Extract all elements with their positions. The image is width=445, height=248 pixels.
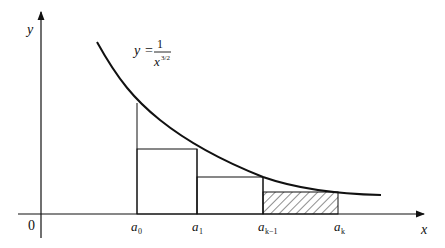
- svg-text:k−1: k−1: [265, 227, 278, 236]
- rectangle-a0-a1: [137, 149, 197, 214]
- function-label: y = 1 x 3/2: [132, 37, 171, 69]
- tick-label-ak: a k: [334, 219, 345, 236]
- origin-label: 0: [28, 218, 35, 233]
- svg-text:x: x: [153, 54, 160, 69]
- rectangle-a1-ak-1: [197, 177, 263, 214]
- svg-text:a: a: [334, 219, 341, 234]
- function-curve: [97, 42, 381, 195]
- svg-text:=: =: [145, 43, 153, 58]
- svg-text:k: k: [341, 227, 345, 236]
- svg-text:3/2: 3/2: [161, 54, 170, 62]
- svg-text:1: 1: [157, 37, 163, 51]
- integral-diagram: y = 1 x 3/2 y x 0 a 0 a 1 a k−1 a k: [0, 0, 445, 248]
- svg-text:0: 0: [138, 227, 142, 236]
- tick-label-a1: a 1: [192, 219, 203, 236]
- svg-text:y: y: [132, 43, 141, 58]
- x-axis-label: x: [420, 222, 428, 237]
- svg-text:a: a: [131, 219, 138, 234]
- svg-text:1: 1: [199, 227, 203, 236]
- tick-label-a0: a 0: [131, 219, 142, 236]
- tick-label-ak-1: a k−1: [258, 219, 278, 236]
- y-axis-label: y: [25, 22, 34, 37]
- svg-text:a: a: [258, 219, 265, 234]
- svg-text:a: a: [192, 219, 199, 234]
- hatched-rectangle: [263, 192, 338, 214]
